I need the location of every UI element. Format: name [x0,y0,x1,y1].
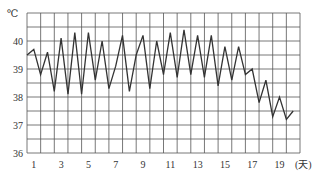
x-tick-label: 19 [275,159,285,170]
y-tick-label: 36 [13,148,23,159]
y-tick-label: 40 [13,36,23,47]
y-axis-ticks: 3637383940 [13,36,23,159]
y-tick-label: 37 [13,120,23,131]
x-tick-label: 3 [59,159,64,170]
y-axis-unit-label: ℃ [7,8,18,19]
chart-grid [27,13,300,153]
x-tick-label: 17 [247,159,257,170]
temperature-line-chart: 3637383940 135791113151719 ℃ (天) [0,0,324,183]
x-axis-unit-label: (天) [295,159,312,171]
x-tick-label: 15 [220,159,230,170]
temperature-series-line [27,30,293,120]
x-tick-label: 13 [193,159,203,170]
x-tick-label: 1 [31,159,36,170]
x-tick-label: 9 [141,159,146,170]
x-tick-label: 5 [86,159,91,170]
y-tick-label: 39 [13,64,23,75]
x-tick-label: 11 [166,159,176,170]
x-tick-label: 7 [113,159,118,170]
y-tick-label: 38 [13,92,23,103]
x-axis-ticks: 135791113151719 [31,159,284,170]
